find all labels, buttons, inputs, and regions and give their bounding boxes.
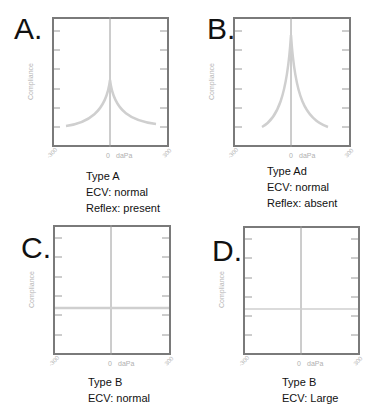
x-tick-zero-d: 0 <box>297 360 301 367</box>
panel-letter-a: A. <box>14 14 42 44</box>
tympanogram-c <box>53 225 171 355</box>
reflex-label-a: Reflex: present <box>86 200 160 216</box>
panel-letter-c: C. <box>21 233 51 263</box>
reflex-label-b: Reflex: absent <box>267 195 337 211</box>
caption-d: Type B ECV: Large <box>282 374 338 406</box>
tympanogram-d <box>243 226 360 355</box>
x-tick-zero-c: 0 <box>108 360 112 367</box>
caption-b: Type Ad ECV: normal Reflex: absent <box>267 163 337 211</box>
caption-c: Type B ECV: normal <box>88 374 150 406</box>
x-unit-d: daPa <box>307 360 323 367</box>
panel-letter-d: D. <box>212 236 242 266</box>
x-tick-max-b: 300 <box>343 147 354 158</box>
y-axis-label-a: Compliance <box>27 63 34 100</box>
x-tick-min-d: -300 <box>238 355 251 368</box>
ecv-label-b: ECV: normal <box>267 179 337 195</box>
x-tick-zero-b: 0 <box>289 152 293 159</box>
ecv-label-a: ECV: normal <box>86 184 160 200</box>
type-label-b: Type Ad <box>267 163 337 179</box>
type-label-c: Type B <box>88 374 150 390</box>
x-unit-b: daPa <box>299 152 315 159</box>
ecv-label-d: ECV: Large <box>282 390 338 406</box>
caption-a: Type A ECV: normal Reflex: present <box>86 168 160 216</box>
x-tick-zero-a: 0 <box>106 152 110 159</box>
panel-letter-b: B. <box>207 14 235 44</box>
x-tick-max-a: 300 <box>161 147 172 158</box>
x-unit-a: daPa <box>116 152 132 159</box>
x-tick-min-a: -300 <box>46 147 59 160</box>
y-axis-label-c: Compliance <box>28 271 35 308</box>
x-tick-min-c: -300 <box>48 355 61 368</box>
type-label-a: Type A <box>86 168 160 184</box>
x-tick-max-d: 300 <box>352 355 363 366</box>
type-label-d: Type B <box>282 374 338 390</box>
x-tick-min-b: -300 <box>227 147 240 160</box>
x-tick-max-c: 300 <box>163 355 174 366</box>
y-axis-label-d: Compliance <box>218 271 225 308</box>
tympanogram-b <box>233 17 351 147</box>
x-unit-c: daPa <box>118 360 134 367</box>
tympanogram-a <box>52 17 169 147</box>
y-axis-label-b: Compliance <box>208 63 215 100</box>
ecv-label-c: ECV: normal <box>88 390 150 406</box>
